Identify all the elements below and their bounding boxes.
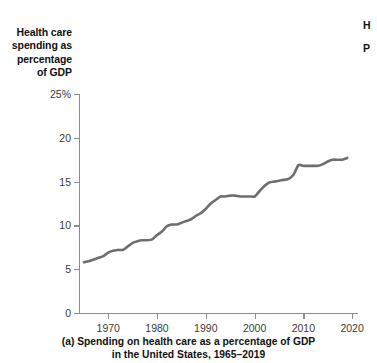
y-axis-title-line-1: Health care (0, 26, 72, 39)
x-tick-label: 1970 (97, 322, 120, 334)
x-tick-label: 1990 (194, 322, 217, 334)
y-tick-label: 25% (50, 88, 71, 100)
caption-line-2: in the United States, 1965–2019 (0, 349, 377, 362)
figure-caption: (a) Spending on health care as a percent… (0, 336, 377, 361)
adjacent-panel-text-fragment-p: P (363, 42, 377, 54)
x-tick-label: 2020 (340, 322, 363, 334)
x-tick-label: 2010 (292, 322, 315, 334)
y-tick-label: 0 (65, 307, 71, 319)
y-tick-label: 20 (59, 132, 71, 144)
caption-line-1: (a) Spending on health care as a percent… (0, 336, 377, 349)
x-tick-label: 1980 (145, 322, 168, 334)
y-tick-label: 5 (65, 263, 71, 275)
series-health-spending (79, 94, 357, 314)
y-axis-title-line-2: spending as (0, 39, 72, 52)
series-line (84, 158, 347, 262)
adjacent-panel-text-fragment-h: H (363, 19, 377, 31)
y-axis-title: Health care spending as percentage of GD… (0, 26, 72, 80)
y-tick-label: 15 (59, 176, 71, 188)
chart-figure: Health care spending as percentage of GD… (0, 0, 377, 363)
y-axis-title-line-4: of GDP (0, 66, 72, 79)
y-tick-label: 10 (59, 219, 71, 231)
y-axis-title-line-3: percentage (0, 53, 72, 66)
x-tick-label: 2000 (243, 322, 266, 334)
